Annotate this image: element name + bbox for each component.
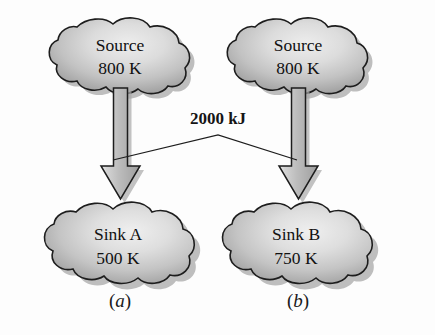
sink-temperature-label-a: 500 K (96, 248, 140, 268)
panel-caption-letter-a: a (115, 290, 125, 311)
panel-b: Source 800 K Sink B 750 K (b) (222, 18, 378, 312)
sink-name-label-b: Sink B (272, 224, 320, 244)
source-name-label-b: Source (274, 35, 323, 55)
sink-name-symbol-b: B (308, 224, 320, 244)
energy-annotation: 2000 kJ (113, 109, 297, 160)
sink-name-prefix-a: Sink (94, 224, 126, 244)
source-cloud-a (49, 18, 189, 94)
source-name-label-a: Source (96, 35, 145, 55)
sink-name-symbol-a: A (129, 224, 142, 244)
panel-caption-a: (a) (109, 290, 131, 312)
sink-name-prefix-b: Sink (272, 224, 304, 244)
sink-name-label-a: Sink A (94, 224, 143, 244)
panel-caption-letter-b: b (293, 290, 303, 311)
energy-amount-label: 2000 kJ (190, 109, 247, 128)
energy-leader-line (113, 135, 297, 160)
figure-container: Source 800 K Sink A 500 K (a) Source 800 (0, 0, 435, 335)
sink-temperature-label-b: 750 K (274, 248, 318, 268)
source-temperature-label-b: 800 K (276, 58, 320, 78)
source-temperature-label-a: 800 K (98, 58, 142, 78)
panel-a: Source 800 K Sink A 500 K (a) (44, 18, 200, 312)
source-cloud-b (227, 18, 367, 94)
heat-transfer-diagram: Source 800 K Sink A 500 K (a) Source 800 (0, 0, 435, 335)
panel-caption-b: (b) (287, 290, 309, 312)
